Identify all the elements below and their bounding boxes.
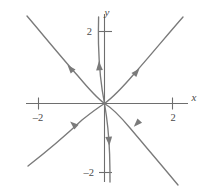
y-axis-label: y <box>104 6 110 18</box>
x-axis-label: x <box>191 91 197 103</box>
curve-upper-right-branch <box>105 17 184 104</box>
y-tick-label-negative-2: –2 <box>83 167 95 178</box>
x-tick-label-positive-2: 2 <box>170 112 175 123</box>
y-tick-label-positive-2: 2 <box>87 26 92 37</box>
curve-vertical-upper-branch <box>98 17 104 104</box>
arrowhead-vertical-lower-branch <box>105 137 112 146</box>
phase-portrait-plot: x y –2 2 2 –2 <box>0 0 208 188</box>
curve-upper-left-branch <box>27 16 105 104</box>
x-tick-label-negative-2: –2 <box>32 112 44 123</box>
phase-portrait-figure: x y –2 2 2 –2 <box>0 0 208 188</box>
arrowhead-vertical-upper-branch <box>95 61 102 70</box>
arrowhead-lower-right-branch <box>132 118 143 129</box>
curve-lower-right-branch <box>105 104 179 186</box>
